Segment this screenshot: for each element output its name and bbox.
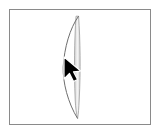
- screenshot-root: narrow vertical crescent / edge-on ellip…: [0, 0, 160, 134]
- canvas-frame[interactable]: [9, 9, 151, 125]
